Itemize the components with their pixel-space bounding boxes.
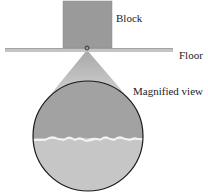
friction-diagram xyxy=(0,0,208,194)
magnified-view-label: Magnified view xyxy=(133,85,203,97)
floor-label: Floor xyxy=(179,49,203,61)
magnified-view xyxy=(30,80,150,193)
block xyxy=(63,1,112,48)
block-label: Block xyxy=(116,12,142,24)
